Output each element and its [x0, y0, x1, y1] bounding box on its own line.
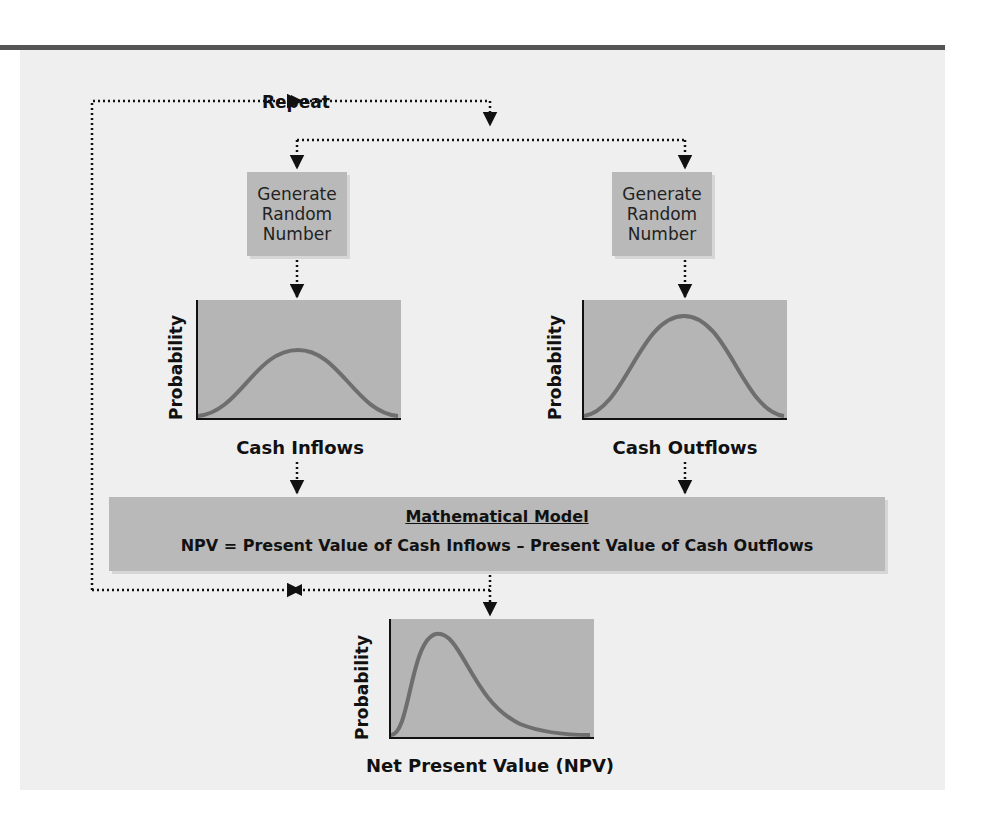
connectors-and-curves — [0, 0, 995, 837]
